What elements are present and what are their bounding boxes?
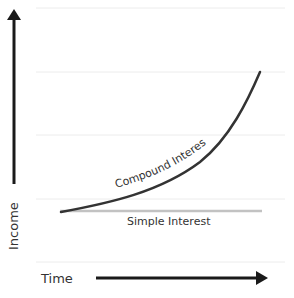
x-axis-label: Time bbox=[40, 271, 73, 286]
y-axis-arrow bbox=[7, 9, 21, 184]
y-axis-label: Income bbox=[6, 202, 21, 250]
compound-interest-label: Compound Interest bbox=[0, 0, 209, 191]
interest-diagram: Compound Interest Simple Interest Time I… bbox=[0, 0, 294, 298]
compound-interest-curve bbox=[61, 72, 260, 212]
simple-interest-label: Simple Interest bbox=[127, 215, 211, 228]
x-axis-arrow bbox=[96, 271, 268, 285]
